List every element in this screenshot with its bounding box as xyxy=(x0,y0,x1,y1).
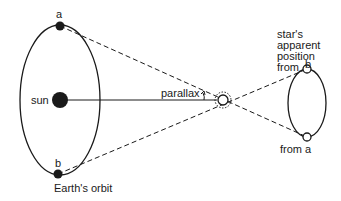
apparent-position-a xyxy=(303,133,311,141)
label-apparent-b: b xyxy=(305,58,311,70)
label-parallax: parallax xyxy=(161,87,200,99)
parallax-angle-arc xyxy=(203,93,204,100)
label-from-a: from a xyxy=(280,143,311,155)
label-sun: sun xyxy=(31,94,49,106)
label-earth-orbit: Earth's orbit xyxy=(54,182,112,194)
sightline-a xyxy=(60,26,307,137)
sun-icon xyxy=(52,92,68,108)
earth-position-b xyxy=(54,170,63,179)
label-apparent-line4: from xyxy=(277,61,299,73)
earth-position-a xyxy=(56,22,65,31)
sightline-b xyxy=(58,69,307,174)
label-earth-a: a xyxy=(56,8,62,20)
apparent-position-orbit xyxy=(288,69,326,137)
star-icon xyxy=(218,95,228,105)
label-earth-b: b xyxy=(55,157,61,169)
